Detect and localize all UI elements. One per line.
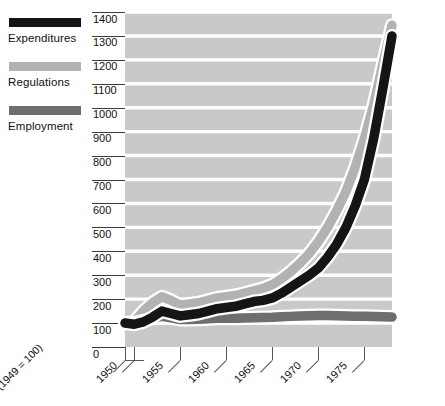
x-tick-leader — [306, 360, 319, 373]
chart-figure: Expenditures Regulations Employment 0100… — [0, 0, 445, 406]
legend-item-expenditures: Expenditures — [8, 17, 86, 44]
y-tick-label: 600 — [93, 205, 111, 216]
x-tick-leader — [122, 360, 135, 373]
legend-label-regulations: Regulations — [8, 76, 86, 88]
x-tick-label: 1975 — [324, 359, 350, 385]
y-tick-label: 1400 — [93, 14, 117, 25]
legend-swatch-expenditures — [8, 17, 82, 28]
y-tick-label: 300 — [93, 277, 111, 288]
y-tick-label: 500 — [93, 229, 111, 240]
legend-label-expenditures: Expenditures — [8, 32, 86, 44]
plot-area — [125, 12, 392, 347]
x-tick-leader — [260, 360, 273, 373]
x-axis-index-note: (1949 = 100) — [0, 341, 44, 392]
x-tick-label: 1955 — [140, 359, 166, 385]
x-tick-label: 1970 — [278, 359, 304, 385]
x-tick-label: 1965 — [232, 359, 258, 385]
y-tick-label: 1000 — [93, 109, 117, 120]
x-tick-label: 1960 — [186, 359, 212, 385]
legend-swatch-regulations — [8, 61, 82, 72]
data-ribbons — [125, 25, 392, 324]
legend-label-employment: Employment — [8, 120, 86, 132]
x-tick-leader — [352, 360, 365, 373]
y-tick-label: 1100 — [93, 85, 117, 96]
y-tick-label: 100 — [93, 325, 111, 336]
y-tick-label: 900 — [93, 133, 111, 144]
y-tick-label: 1300 — [93, 37, 117, 48]
series-line-regulations — [125, 25, 392, 323]
y-tick-label: 0 — [93, 349, 99, 360]
legend-item-employment: Employment — [8, 105, 86, 132]
x-tick-leader — [214, 360, 227, 373]
y-tick-label: 700 — [93, 181, 111, 192]
legend-swatch-employment — [8, 105, 82, 116]
y-tick-label: 1200 — [93, 61, 117, 72]
plot-svg — [125, 12, 410, 352]
x-tick-label: 1950 — [94, 359, 120, 385]
y-tick-label: 800 — [93, 157, 111, 168]
chart-legend: Expenditures Regulations Employment — [0, 0, 96, 140]
y-tick-label: 400 — [93, 253, 111, 264]
x-tick-leader — [168, 360, 181, 373]
y-tick-label: 200 — [93, 301, 111, 312]
y-axis: 0100200300400500600700800900100011001200… — [92, 0, 128, 360]
x-axis-note-leader-diagonal — [113, 360, 126, 373]
legend-item-regulations: Regulations — [8, 61, 86, 88]
